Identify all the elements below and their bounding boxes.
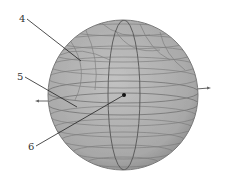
right-arrowhead-icon	[207, 87, 211, 90]
sphere-diagram: 4 5 6	[0, 0, 226, 186]
callout-label-6: 6	[28, 141, 34, 152]
callout-label-5: 5	[17, 71, 23, 82]
left-arrowhead-icon	[35, 100, 39, 103]
callout-label-4: 4	[19, 13, 25, 24]
